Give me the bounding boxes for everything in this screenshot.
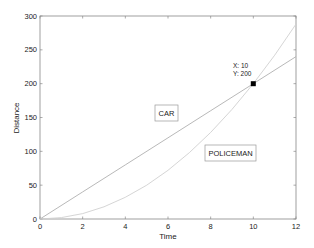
datatip[interactable]: X: 10 Y: 200 bbox=[233, 62, 256, 86]
x-tick-label: 12 bbox=[292, 222, 300, 231]
y-tick-label: 100 bbox=[24, 147, 37, 156]
y-tick-label: 200 bbox=[24, 79, 37, 88]
x-tick-label: 8 bbox=[209, 222, 213, 231]
y-axis-label: Distance bbox=[12, 102, 21, 134]
x-tick-label: 10 bbox=[249, 222, 257, 231]
x-tick-label: 0 bbox=[38, 222, 42, 231]
car-annotation-text: CAR bbox=[159, 109, 175, 118]
x-tick-label: 6 bbox=[166, 222, 170, 231]
datatip-marker[interactable] bbox=[251, 81, 256, 86]
car-line bbox=[40, 57, 296, 219]
datatip-x-label: X: 10 bbox=[233, 62, 249, 69]
y-tick-label: 50 bbox=[29, 181, 37, 190]
y-tick-label: 0 bbox=[33, 215, 37, 224]
y-tick-label: 150 bbox=[24, 113, 37, 122]
figure: 024681012050100150200250300 CAR POLICEMA… bbox=[0, 0, 314, 248]
policeman-line bbox=[40, 24, 296, 219]
policeman-annotation: POLICEMAN bbox=[205, 145, 256, 161]
y-tick-label: 250 bbox=[24, 45, 37, 54]
datatip-y-label: Y: 200 bbox=[233, 70, 252, 77]
policeman-annotation-text: POLICEMAN bbox=[208, 149, 252, 158]
car-annotation: CAR bbox=[155, 105, 178, 121]
x-axis-label: Time bbox=[159, 232, 177, 241]
y-tick-label: 300 bbox=[24, 12, 37, 21]
x-tick-label: 4 bbox=[123, 222, 127, 231]
curves bbox=[40, 24, 296, 219]
x-tick-label: 2 bbox=[81, 222, 85, 231]
